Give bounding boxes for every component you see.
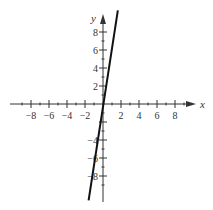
y-tick-label: 4 [93,63,98,74]
axes: xy [10,12,205,202]
x-tick-label: −4 [62,110,73,121]
y-tick-label: 8 [93,27,98,38]
x-tick-label: 4 [137,110,142,121]
x-axis-arrow-icon [186,101,196,107]
x-tick-label: −8 [26,110,37,121]
x-tick-label: −2 [80,110,91,121]
y-axis-label: y [90,12,96,24]
x-tick-label: 2 [119,110,124,121]
y-tick-label: 2 [93,81,98,92]
x-tick-label: 6 [155,110,160,121]
x-tick-label: −6 [44,110,55,121]
line-graph: xy −8−6−4−224688642−4−6−8 [0,0,213,210]
y-tick-label: 6 [93,45,98,56]
x-tick-label: 8 [173,110,178,121]
x-axis-label: x [199,98,205,110]
